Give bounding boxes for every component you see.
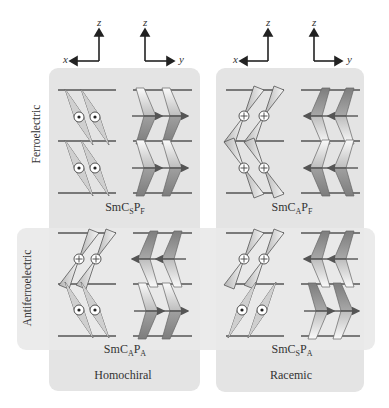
- axis-label-x: x: [233, 53, 238, 65]
- diagram-canvas: [0, 0, 389, 408]
- axis-yz-racemic: [310, 29, 342, 65]
- axis-label-z: z: [143, 16, 147, 28]
- column-label-homochiral: Homochiral: [94, 368, 151, 383]
- axis-xz-homochiral: [70, 29, 103, 65]
- axis-yz-homochiral: [141, 29, 174, 65]
- phase-label-homo-ferro: SmCSPF: [105, 200, 145, 216]
- phase-label-racemic-ferro: SmCAPF: [272, 200, 313, 216]
- row-label-ferroelectric: Ferroelectric: [30, 94, 42, 174]
- row-label-antiferroelectric: Antiferroelectric: [21, 243, 33, 333]
- axis-label-y: y: [179, 53, 184, 65]
- column-label-racemic: Racemic: [270, 368, 312, 383]
- homo-ferro-molecules: [65, 88, 188, 196]
- phase-label-homo-antiferro: SmCAPA: [104, 342, 146, 358]
- axis-label-z: z: [266, 16, 270, 28]
- homo-antiferro-molecules: [59, 229, 188, 339]
- phase-label-racemic-antiferro: SmCSPA: [272, 342, 313, 358]
- axis-label-z: z: [97, 16, 101, 28]
- axis-label-y: y: [347, 53, 352, 65]
- axis-label-z: z: [312, 16, 316, 28]
- racemic-ferro-molecules: [224, 86, 358, 198]
- axis-label-x: x: [63, 53, 68, 65]
- axis-xz-racemic: [240, 29, 272, 65]
